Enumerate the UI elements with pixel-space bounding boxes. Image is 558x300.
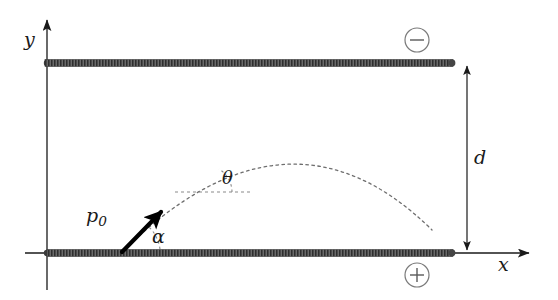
momentum-subscript: 0 [98, 213, 107, 229]
momentum-symbol: p [86, 204, 98, 226]
theta-angle-label: θ [222, 169, 233, 187]
positive-plate-end-cap [449, 250, 456, 257]
charge-markers [405, 28, 429, 287]
plate-separation-label: d [474, 148, 486, 167]
alpha-angle-label: α [152, 227, 165, 246]
physics-diagram-capacitor-projectile: y x d p0 α θ [0, 0, 558, 300]
parabolic-trajectory [122, 164, 432, 252]
y-axis-label: y [24, 30, 35, 49]
positive-plate [47, 250, 453, 257]
negative-plate-end-cap [449, 60, 456, 67]
x-axis-label: x [498, 255, 509, 274]
negative-plate [45, 60, 453, 67]
momentum-vector-label: p0 [86, 206, 107, 229]
